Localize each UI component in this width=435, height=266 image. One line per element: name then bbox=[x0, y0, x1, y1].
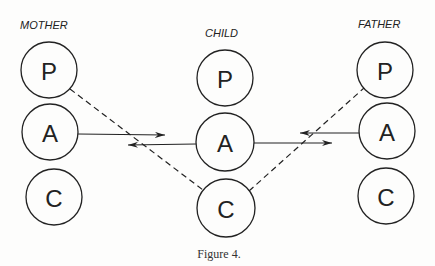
dashed-child-c-to-father-p bbox=[249, 88, 364, 191]
mother-c-letter: C bbox=[45, 185, 62, 212]
child-a-letter: A bbox=[217, 130, 233, 157]
child-label: CHILD bbox=[205, 27, 238, 39]
mother-label: MOTHER bbox=[20, 19, 68, 31]
child-p-letter: P bbox=[217, 66, 233, 93]
mother-a-letter: A bbox=[42, 120, 58, 147]
figure-caption: Figure 4. bbox=[197, 247, 240, 261]
arrow-child-to-mother bbox=[128, 144, 196, 145]
father-p-letter: P bbox=[377, 58, 393, 85]
father-c-letter: C bbox=[377, 184, 394, 211]
father-a-letter: A bbox=[379, 119, 395, 146]
child-c-letter: C bbox=[217, 196, 234, 223]
dashed-mother-p-to-child-c bbox=[70, 89, 203, 190]
mother-p-letter: P bbox=[41, 58, 57, 85]
pac-transaction-diagram: MOTHER CHILD FATHER P A C P A C P A C Fi… bbox=[0, 0, 435, 266]
arrow-mother-to-child bbox=[78, 134, 165, 135]
father-label: FATHER bbox=[358, 18, 400, 30]
